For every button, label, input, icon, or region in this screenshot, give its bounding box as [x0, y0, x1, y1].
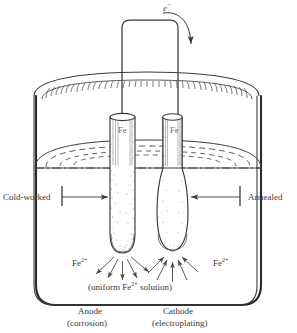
cathode-material-label: Fe	[170, 126, 179, 135]
anode-ion-label: Fe2+	[72, 259, 88, 268]
anode-material-label: Fe	[118, 126, 127, 135]
cathode-caption: Cathode	[163, 307, 193, 316]
external-wire	[122, 20, 178, 118]
electron-flow-arrow	[163, 13, 191, 44]
cathode-ion-arrows	[148, 257, 198, 282]
cathode-ion-label: Fe2+	[213, 259, 229, 268]
cathode-caption-sub: (electroplating)	[152, 319, 207, 328]
beaker	[34, 72, 261, 305]
cold-worked-label: Cold-worked	[3, 193, 51, 202]
anode-ion-arrows	[96, 257, 149, 280]
solution-label: (uniform Fe2+ solution)	[88, 283, 172, 292]
anode-caption-sub: (corrosion)	[67, 319, 107, 328]
callout-leaders	[62, 186, 240, 206]
anode-caption: Anode	[78, 307, 102, 316]
liquid-surface	[35, 140, 261, 168]
annealed-label: Annealed	[248, 193, 282, 202]
electron-label: e−	[163, 4, 171, 13]
electrochemical-cell-figure: e− Fe Fe Cold-worked Annealed Fe2+ Fe2+ …	[0, 0, 297, 333]
